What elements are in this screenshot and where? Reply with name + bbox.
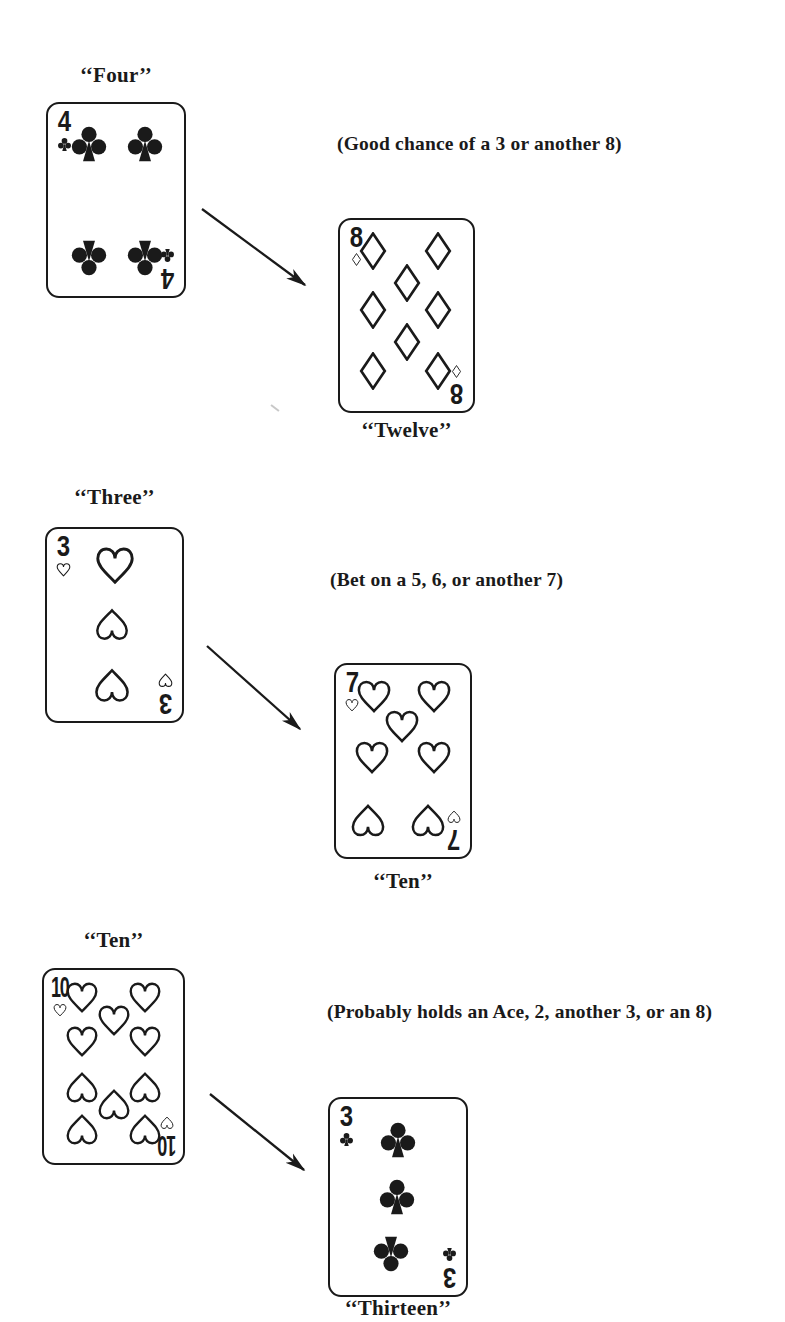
club-pip-icon xyxy=(69,238,109,278)
book-page: ‘‘Four’’ 44 (Good chance of a 3 or anoth… xyxy=(0,0,785,1322)
card-eight-of-diamonds: 88 xyxy=(338,218,475,413)
heart-pip-icon xyxy=(65,980,99,1014)
club-icon xyxy=(339,1132,354,1147)
club-pip-icon xyxy=(377,1177,417,1217)
pip xyxy=(354,352,392,390)
card-three-of-clubs: 33 xyxy=(328,1097,468,1297)
pip xyxy=(97,1003,131,1037)
heart-pip-icon xyxy=(128,1113,162,1147)
pip xyxy=(410,803,446,839)
pip xyxy=(94,545,135,586)
pip xyxy=(65,1024,99,1058)
arrow-ten-to-thirteen xyxy=(210,1094,304,1170)
heart-pip-icon xyxy=(97,1088,131,1122)
pip xyxy=(65,1113,99,1147)
pip xyxy=(378,1120,418,1160)
card-four-of-clubs: 44 xyxy=(46,102,186,298)
pip xyxy=(94,608,129,643)
heart-pip-icon xyxy=(128,1071,162,1105)
pip xyxy=(377,1177,417,1217)
club-pip-icon xyxy=(69,124,109,164)
heart-pip-icon xyxy=(128,1024,162,1058)
card-rank: 3 xyxy=(56,531,69,561)
diamond-pip-icon xyxy=(419,352,457,390)
club-pip-icon xyxy=(125,238,165,278)
pip xyxy=(416,678,452,714)
card-rank: 7 xyxy=(447,825,460,855)
heart-pip-icon xyxy=(93,668,130,705)
hand-label-ten: ‘‘Ten’’ xyxy=(42,929,185,951)
heart-pip-icon xyxy=(94,608,129,643)
heart-icon xyxy=(56,562,71,577)
heart-pip-icon xyxy=(65,1113,99,1147)
pip xyxy=(69,238,109,278)
heart-pip-icon xyxy=(354,739,390,775)
club-pip-icon xyxy=(125,124,165,164)
annotation-probably-holds: (Probably holds an Ace, 2, another 3, or… xyxy=(327,1001,712,1023)
pip xyxy=(128,980,162,1014)
pip xyxy=(371,1234,411,1274)
pip xyxy=(416,739,452,775)
heart-icon xyxy=(159,673,174,688)
card-ten-of-hearts: 1010 xyxy=(42,968,185,1165)
corner-index-br: 3 xyxy=(153,673,179,719)
corner-index-tl: 3 xyxy=(333,1101,359,1147)
pip xyxy=(128,1024,162,1058)
heart-pip-icon xyxy=(65,1071,99,1105)
heart-pip-icon xyxy=(65,1024,99,1058)
pip xyxy=(419,352,457,390)
heart-pip-icon xyxy=(128,980,162,1014)
heart-pip-icon xyxy=(416,678,452,714)
pip xyxy=(128,1113,162,1147)
hand-label-three: ‘‘Three’’ xyxy=(45,486,184,508)
count-label-twelve: ‘‘Twelve’’ xyxy=(338,419,475,441)
pip xyxy=(97,1088,131,1122)
heart-pip-icon xyxy=(410,803,446,839)
heart-pip-icon xyxy=(97,1003,131,1037)
diamond-pip-icon xyxy=(354,352,392,390)
scan-artifact xyxy=(270,404,279,412)
count-label-thirteen: ‘‘Thirteen’’ xyxy=(328,1297,468,1319)
count-label-ten: ‘‘Ten’’ xyxy=(334,870,472,892)
annotation-good-chance: (Good chance of a 3 or another 8) xyxy=(337,133,622,155)
card-rank: 3 xyxy=(159,689,172,719)
heart-icon xyxy=(160,1116,174,1130)
arrow-three-to-ten xyxy=(207,646,300,729)
corner-index-tl: 3 xyxy=(50,531,76,577)
pip xyxy=(128,1071,162,1105)
club-icon xyxy=(443,1247,458,1262)
pip xyxy=(350,803,386,839)
card-rank: 3 xyxy=(443,1263,456,1293)
pip xyxy=(65,980,99,1014)
pip xyxy=(125,238,165,278)
pip xyxy=(65,1071,99,1105)
heart-pip-icon xyxy=(350,803,386,839)
corner-index-br: 3 xyxy=(437,1247,463,1293)
heart-icon xyxy=(447,810,461,824)
heart-pip-icon xyxy=(416,739,452,775)
card-seven-of-hearts: 77 xyxy=(334,663,472,859)
club-pip-icon xyxy=(378,1120,418,1160)
arrow-four-to-twelve xyxy=(202,209,305,285)
heart-pip-icon xyxy=(94,545,135,586)
pip xyxy=(93,668,130,705)
annotation-bet-on: (Bet on a 5, 6, or another 7) xyxy=(330,569,563,591)
pip xyxy=(354,739,390,775)
hand-label-four: ‘‘Four’’ xyxy=(46,64,186,86)
pip xyxy=(125,124,165,164)
card-three-of-hearts: 33 xyxy=(45,527,184,723)
pip xyxy=(69,124,109,164)
card-rank: 3 xyxy=(339,1101,352,1131)
club-pip-icon xyxy=(371,1234,411,1274)
